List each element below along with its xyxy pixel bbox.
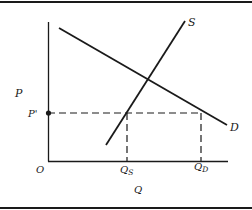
origin-label: O	[36, 164, 44, 175]
price-ceiling-dot	[46, 110, 51, 115]
x-axis-label: Q	[134, 184, 142, 195]
supply-curve	[106, 21, 185, 145]
quantity-supplied-label: QS	[120, 164, 133, 177]
supply-demand-diagram: P P' O S D QS QD Q	[0, 0, 252, 210]
quantity-demanded-label: QD	[194, 161, 208, 174]
y-axis-label: P	[14, 87, 23, 100]
price-ceiling-label: P'	[27, 108, 37, 119]
demand-label: D	[229, 121, 239, 134]
diagram-frame: P P' O S D QS QD Q	[0, 0, 252, 210]
demand-curve	[59, 28, 227, 125]
supply-label: S	[188, 16, 196, 29]
